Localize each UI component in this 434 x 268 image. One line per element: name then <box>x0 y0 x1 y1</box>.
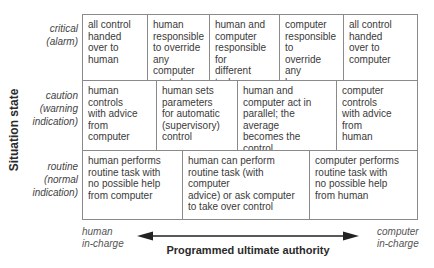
cell-caution-3: human and computer act in parallel; the … <box>238 81 337 150</box>
cell-caution-4: computer controls with advice from human <box>337 81 417 150</box>
y-axis-title: Situation state <box>4 60 24 200</box>
cell-routine-2: human can perform routine task (with com… <box>183 151 310 219</box>
cell-critical-2: human responsible to override any comput… <box>148 15 210 80</box>
cell-caution-2: human sets parameters for automatic (sup… <box>157 81 238 150</box>
row-label-critical: critical (alarm) <box>24 22 78 48</box>
y-axis-title-text: Situation state <box>7 89 21 172</box>
cell-critical-3: human and computer responsible for diffe… <box>210 15 280 80</box>
authority-matrix: all control handed over to human human r… <box>82 14 418 220</box>
computer-in-charge-label: computer in-charge <box>377 226 419 250</box>
cell-routine-3: computer performs routine task with no p… <box>310 151 417 219</box>
row-label-caution: caution (warning indication) <box>24 89 78 128</box>
cell-critical-5: all control handed over to computer <box>344 15 417 80</box>
x-axis-title: Programmed ultimate authority <box>120 244 376 256</box>
double-arrow-icon <box>137 231 359 241</box>
cell-routine-1: human performs routine task with no poss… <box>83 151 183 219</box>
matrix-row-routine: human performs routine task with no poss… <box>83 151 417 219</box>
cell-critical-1: all control handed over to human <box>83 15 148 80</box>
matrix-row-caution: human controls with advice from computer… <box>83 81 417 151</box>
cell-caution-1: human controls with advice from computer <box>83 81 157 150</box>
cell-critical-4: computer responsible to override any hum… <box>280 15 344 80</box>
matrix-row-critical: all control handed over to human human r… <box>83 15 417 81</box>
human-in-charge-label: human in-charge <box>82 226 124 250</box>
row-label-routine: routine (normal indication) <box>24 160 78 199</box>
